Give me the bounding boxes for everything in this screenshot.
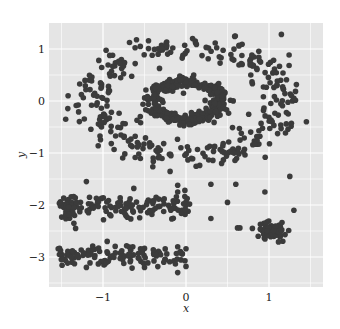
band-y-minus-2-point	[71, 205, 77, 211]
inner-ring-point	[191, 72, 197, 78]
inner-ring-point	[208, 92, 214, 98]
outer-ring-point	[261, 105, 267, 111]
outer-ring-point	[132, 45, 138, 51]
y-tick-label: −1	[29, 147, 45, 160]
band-y-minus-3-point	[174, 251, 180, 257]
outer-ring-point	[221, 150, 227, 156]
outer-ring-point	[232, 158, 238, 164]
outer-ring-point	[132, 61, 138, 67]
outer-ring-point	[237, 126, 243, 132]
outer-ring-point	[229, 56, 235, 62]
outer-ring-point	[167, 169, 173, 175]
outer-ring-point	[293, 89, 299, 95]
inner-ring-point	[207, 115, 213, 121]
outer-ring-point	[284, 110, 290, 116]
outer-ring-point	[211, 149, 217, 155]
outer-ring-point	[248, 129, 254, 135]
band-y-minus-2-point	[161, 209, 167, 215]
inner-ring-point	[192, 82, 198, 88]
band-y-minus-2-point	[91, 205, 97, 211]
outer-ring-point	[150, 155, 156, 161]
outer-ring-point	[283, 130, 289, 136]
band-y-minus-3-point	[104, 239, 110, 245]
outer-ring-point	[108, 124, 114, 130]
inner-ring-point	[180, 115, 186, 121]
inner-ring-point	[202, 98, 208, 104]
outer-ring-point	[258, 121, 264, 127]
outer-ring-point	[157, 66, 163, 72]
outer-ring-point	[268, 101, 274, 107]
outer-ring-point	[91, 92, 97, 98]
outer-ring-point	[278, 122, 284, 128]
band-y-minus-2-point	[122, 210, 128, 216]
band-y-minus-2-point	[152, 206, 158, 212]
outer-ring-point	[156, 154, 162, 160]
inner-ring-point	[186, 122, 192, 128]
band-y-minus-3-point	[69, 255, 75, 261]
band-y-minus-3-point	[117, 256, 123, 262]
outer-ring-point	[147, 142, 153, 148]
x-tick-label: −1	[95, 291, 111, 304]
band-y-minus-2-point	[175, 207, 181, 213]
inner-ring-point	[219, 93, 225, 99]
outer-ring-point	[107, 53, 113, 59]
outer-ring-point	[199, 53, 205, 59]
outer-ring-point	[161, 141, 167, 147]
outer-ring-point	[267, 141, 273, 147]
outer-ring-point	[155, 145, 161, 151]
outer-ring-point	[77, 81, 83, 87]
band-y-minus-2-point	[182, 206, 188, 212]
band-y-minus-2-point	[71, 194, 77, 200]
outer-ring-point	[231, 46, 237, 52]
band-y-minus-3-point	[96, 261, 102, 267]
cluster-right-point	[208, 181, 214, 187]
outer-ring-point	[96, 58, 102, 64]
outer-ring-point	[82, 78, 88, 84]
band-y-minus-2-point	[115, 204, 121, 210]
outer-ring-point	[164, 43, 170, 49]
inner-ring-point	[226, 110, 232, 116]
band-y-minus-3-point	[145, 260, 151, 266]
band-y-minus-2-point	[147, 208, 153, 214]
band-y-minus-3-point	[80, 253, 86, 259]
x-axis-label: x	[183, 302, 190, 315]
inner-ring-point	[178, 77, 184, 83]
outer-ring-point	[282, 91, 288, 97]
inner-ring-point	[140, 101, 146, 107]
outer-ring-point	[155, 46, 161, 52]
outer-ring-point	[87, 73, 93, 79]
inner-ring-point	[145, 94, 151, 100]
outer-ring-point	[264, 85, 270, 91]
outer-ring-point	[146, 38, 152, 44]
outer-ring-point	[135, 144, 141, 150]
outer-ring-point	[205, 56, 211, 62]
outer-ring-point	[250, 81, 256, 87]
outer-ring-point	[266, 118, 272, 124]
outer-ring-point	[113, 133, 119, 139]
outer-ring-point	[257, 58, 263, 64]
outer-ring-point	[261, 94, 267, 100]
cluster-right-point	[208, 216, 214, 222]
inner-ring-point	[177, 122, 183, 128]
band-y-minus-2-point	[73, 226, 79, 232]
band-y-minus-3-point	[142, 255, 148, 261]
outer-ring-point	[194, 42, 200, 48]
outer-ring-point	[138, 44, 144, 50]
outer-ring-point	[99, 124, 105, 130]
cluster-right-point	[287, 174, 293, 180]
band-y-minus-2-point	[102, 205, 108, 211]
inner-ring-point	[183, 79, 189, 85]
band-y-minus-3-point	[151, 258, 157, 264]
cluster-right-point	[278, 227, 284, 233]
outer-ring-point	[117, 61, 123, 67]
outer-ring-point	[94, 100, 100, 106]
band-y-minus-3-point	[57, 245, 63, 251]
inner-ring-point	[143, 87, 149, 93]
band-y-minus-3-point	[110, 253, 116, 259]
inner-ring-point	[208, 108, 214, 114]
cluster-right-point	[233, 181, 239, 187]
y-ticks: 10−1−2−3	[29, 43, 45, 264]
outer-ring-point	[116, 110, 122, 116]
outer-ring-point	[185, 157, 191, 163]
band-y-minus-2-point	[84, 179, 90, 185]
